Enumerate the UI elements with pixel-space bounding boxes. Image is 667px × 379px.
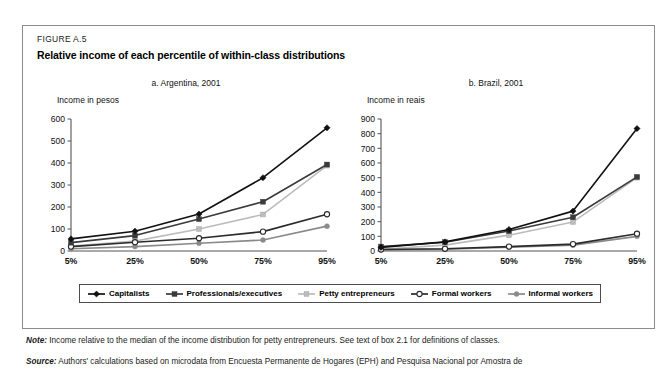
plot-area-brazil: 01002003004005006007008009005%25%50%75%9… (341, 113, 651, 273)
legend-item-label: Formal workers (432, 289, 492, 298)
data-point-marker (571, 220, 576, 225)
data-point-marker (197, 227, 202, 232)
legend-item-label: Informal workers (529, 289, 593, 298)
legend-marker (93, 290, 99, 296)
x-tick-label: 75% (254, 256, 272, 266)
data-point-marker (634, 231, 639, 236)
y-tick-label: 100 (361, 232, 376, 242)
legend-marker (417, 291, 422, 296)
x-tick-label: 75% (564, 256, 582, 266)
data-point-marker (196, 236, 201, 241)
legend-item-informal-workers[interactable]: Informal workers (507, 289, 593, 299)
panel-title-argentina: a. Argentina, 2001 (31, 78, 341, 88)
data-point-marker (324, 212, 329, 217)
y-tick-label: 300 (51, 180, 66, 190)
data-point-marker (325, 224, 330, 229)
data-point-marker (570, 242, 575, 247)
source-prefix: Source: (26, 357, 56, 366)
data-point-marker (197, 241, 202, 246)
y-tick-label: 200 (361, 217, 376, 227)
y-tick-label: 0 (60, 246, 65, 256)
filled-circle-marker (507, 289, 526, 299)
y-tick-label: 200 (51, 202, 66, 212)
data-point-marker (442, 246, 447, 251)
y-tick-label: 900 (361, 114, 376, 124)
data-point-marker (506, 244, 511, 249)
x-tick-label: 50% (190, 256, 208, 266)
data-point-marker (261, 199, 266, 204)
y-axis-label-brazil: Income in reais (367, 95, 425, 105)
data-point-marker (571, 215, 576, 220)
y-tick-label: 800 (361, 129, 376, 139)
y-axis-label-argentina: Income in pesos (57, 95, 119, 105)
figure-source: Source: Authors' calculations based on m… (26, 357, 522, 366)
legend-item-label: Petty entrepreneurs (319, 289, 395, 298)
note-prefix: Note: (26, 336, 47, 345)
series-professionals-executives (379, 174, 640, 249)
legend-item-professionals-executives[interactable]: Professionals/executives (165, 289, 283, 299)
legend-item-label: Capitalists (109, 289, 149, 298)
legend-marker (514, 291, 519, 296)
data-point-marker (325, 162, 330, 167)
y-tick-label: 500 (361, 173, 376, 183)
data-point-marker (196, 211, 202, 217)
filled-diamond-marker (87, 289, 106, 299)
x-tick-label: 25% (126, 256, 144, 266)
filled-square-marker (165, 289, 184, 299)
figure-note: Note: Income relative to the median of t… (26, 336, 500, 345)
panel-title-brazil: b. Brazil, 2001 (341, 78, 651, 88)
y-tick-label: 100 (51, 224, 66, 234)
series-capitalists (378, 125, 640, 250)
y-tick-label: 600 (361, 158, 376, 168)
legend-item-capitalists[interactable]: Capitalists (87, 289, 149, 299)
data-point-marker (260, 229, 265, 234)
legend-item-petty-entrepreneurs[interactable]: Petty entrepreneurs (297, 289, 395, 299)
y-tick-label: 400 (361, 188, 376, 198)
y-tick-label: 500 (51, 136, 66, 146)
figure-title: Relative income of each percentile of wi… (37, 49, 345, 61)
series-line (71, 128, 327, 239)
legend-item-label: Professionals/executives (187, 289, 283, 298)
legend-marker (172, 291, 177, 296)
y-tick-label: 300 (361, 202, 376, 212)
light-square-marker (297, 289, 316, 299)
chart-panel-argentina: a. Argentina, 2001 Income in pesos 01002… (31, 78, 341, 278)
chart-svg-b: 01002003004005006007008009005%25%50%75%9… (341, 113, 651, 273)
x-tick-label: 95% (628, 256, 646, 266)
figure-label: FIGURE A.5 (37, 34, 87, 44)
x-tick-label: 5% (65, 256, 78, 266)
data-point-marker (132, 240, 137, 245)
note-text: Income relative to the median of the inc… (49, 336, 500, 345)
data-point-marker (261, 238, 266, 243)
y-tick-label: 600 (51, 114, 66, 124)
x-tick-label: 25% (436, 256, 454, 266)
legend-item-formal-workers[interactable]: Formal workers (410, 289, 492, 299)
data-point-marker (635, 174, 640, 179)
data-point-marker (261, 212, 266, 217)
y-tick-label: 700 (361, 144, 376, 154)
chart-svg-a: 01002003004005006005%25%50%75%95% (31, 113, 341, 273)
y-tick-label: 0 (370, 246, 375, 256)
x-tick-label: 50% (500, 256, 518, 266)
chart-legend: CapitalistsProfessionals/executivesPetty… (79, 284, 601, 303)
legend-marker (304, 291, 309, 296)
series-line (381, 178, 637, 250)
open-circle-marker (410, 289, 429, 299)
plot-area-argentina: 01002003004005006005%25%50%75%95% (31, 113, 341, 273)
series-professionals-executives (69, 162, 330, 245)
y-tick-label: 400 (51, 158, 66, 168)
chart-panel-brazil: b. Brazil, 2001 Income in reais 01002003… (341, 78, 651, 278)
x-tick-label: 5% (375, 256, 388, 266)
figure-frame: FIGURE A.5 Relative income of each perce… (22, 25, 655, 329)
source-text: Authors' calculations based on microdata… (58, 357, 522, 366)
x-tick-label: 95% (318, 256, 336, 266)
